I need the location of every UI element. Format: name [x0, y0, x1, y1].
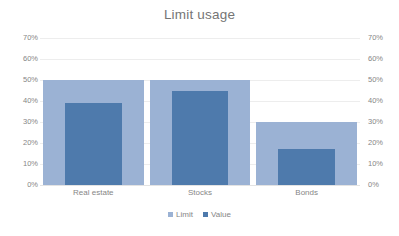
x-axis-category-labels: Real estateStocksBonds: [40, 188, 360, 202]
y-axis-right-tick-4: 30%: [368, 117, 383, 127]
bar-value-0: [65, 103, 121, 185]
x-axis-label-2: Bonds: [253, 188, 360, 197]
y-axis-right-tick-0: 70%: [368, 33, 383, 43]
chart-title: Limit usage: [0, 7, 399, 22]
y-axis-right-tick-5: 20%: [368, 138, 383, 148]
bar-group-2: [256, 38, 357, 185]
y-axis-right-tick-7: 0%: [368, 180, 379, 190]
legend-swatch-icon-0: [168, 212, 173, 217]
x-axis-label-1: Stocks: [147, 188, 254, 197]
plot-area: [40, 38, 360, 185]
y-axis-left-tick-4: 30%: [23, 117, 38, 127]
axis-baseline: [40, 185, 360, 186]
y-axis-left: 70%60%50%40%30%20%10%0%: [4, 33, 38, 185]
chart-container: Limit usage 70%60%50%40%30%20%10%0% 70%6…: [0, 0, 399, 236]
bars-layer: [40, 38, 360, 185]
legend-label-0: Limit: [176, 210, 193, 219]
chart-legend: LimitValue: [0, 210, 399, 219]
bar-group-0: [43, 38, 144, 185]
y-axis-right: 70%60%50%40%30%20%10%0%: [363, 33, 397, 185]
bar-group-1: [150, 38, 251, 185]
y-axis-left-tick-0: 70%: [23, 33, 38, 43]
legend-label-1: Value: [211, 210, 231, 219]
y-axis-right-tick-2: 50%: [368, 75, 383, 85]
x-axis-label-0: Real estate: [40, 188, 147, 197]
y-axis-left-tick-3: 40%: [23, 96, 38, 106]
legend-item-1[interactable]: Value: [203, 210, 231, 219]
legend-swatch-icon-1: [203, 212, 208, 217]
y-axis-left-tick-5: 20%: [23, 138, 38, 148]
bar-value-2: [278, 149, 334, 185]
y-axis-left-tick-6: 10%: [23, 159, 38, 169]
y-axis-left-tick-7: 0%: [27, 180, 38, 190]
bar-value-1: [172, 91, 228, 186]
y-axis-left-tick-1: 60%: [23, 54, 38, 64]
y-axis-left-tick-2: 50%: [23, 75, 38, 85]
legend-item-0[interactable]: Limit: [168, 210, 193, 219]
y-axis-right-tick-3: 40%: [368, 96, 383, 106]
y-axis-right-tick-1: 60%: [368, 54, 383, 64]
y-axis-right-tick-6: 10%: [368, 159, 383, 169]
